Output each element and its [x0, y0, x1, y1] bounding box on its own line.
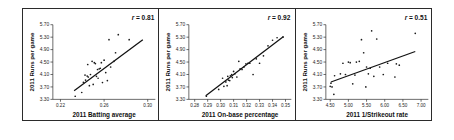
- data-point: [222, 77, 224, 79]
- correlation-value: = 0.81: [136, 14, 155, 21]
- data-point: [245, 63, 247, 65]
- data-point: [83, 81, 85, 83]
- y-tick-label: 5.30: [40, 35, 50, 40]
- data-point: [128, 39, 130, 41]
- correlation-value: = 0.51: [409, 14, 428, 21]
- data-point: [230, 75, 232, 77]
- data-point: [117, 34, 119, 36]
- x-tick-label: 0.26: [100, 103, 109, 108]
- x-tick-label: 7.00: [416, 103, 425, 108]
- x-tick-label: 0.28: [191, 103, 200, 108]
- data-point: [365, 66, 367, 68]
- data-point: [355, 61, 357, 63]
- data-point: [87, 76, 89, 78]
- x-axis-title: 2011 Batting average: [72, 111, 136, 119]
- data-point: [89, 85, 91, 87]
- x-tick-label: 4.50: [325, 103, 334, 108]
- data-point: [96, 76, 98, 78]
- data-point: [225, 81, 227, 83]
- y-tick-label: 3.70: [312, 85, 322, 90]
- y-tick-label: 5.70: [312, 23, 322, 28]
- data-point: [360, 39, 362, 41]
- y-tick-label: 3.70: [176, 85, 186, 90]
- correlation-annotation: r= 0.92: [268, 14, 291, 21]
- data-point: [238, 61, 240, 63]
- correlation-symbol: r: [404, 14, 407, 21]
- x-tick-label: 0.33: [255, 103, 264, 108]
- data-point: [101, 62, 103, 64]
- y-tick-label: 3.30: [40, 97, 50, 102]
- data-point: [229, 80, 231, 82]
- panel-frame: 3.303.704.104.504.905.305.700.220.260.30…: [22, 8, 432, 121]
- y-tick-label: 3.30: [176, 97, 186, 102]
- x-tick-label: 5.00: [344, 103, 353, 108]
- data-point: [365, 86, 367, 88]
- data-point: [352, 83, 354, 85]
- data-point: [227, 85, 229, 87]
- data-point: [247, 62, 249, 64]
- data-point: [90, 74, 92, 76]
- data-point: [263, 55, 265, 57]
- data-point: [85, 79, 87, 81]
- data-point: [233, 71, 235, 73]
- data-point: [108, 39, 110, 41]
- y-tick-label: 4.10: [40, 72, 50, 77]
- y-tick-label: 3.30: [312, 97, 322, 102]
- regression-line: [74, 40, 143, 91]
- y-axis-title: 2011 Runs per game: [28, 32, 35, 91]
- data-point: [242, 69, 244, 71]
- data-point: [249, 62, 251, 64]
- panel-3-plot: 3.303.704.104.504.905.305.704.505.005.50…: [296, 9, 431, 120]
- y-tick-label: 3.70: [40, 85, 50, 90]
- x-tick-label: 0.32: [242, 103, 251, 108]
- data-point: [84, 74, 86, 76]
- y-tick-label: 5.30: [312, 35, 322, 40]
- y-tick-label: 5.70: [176, 23, 186, 28]
- x-tick-label: 0.30: [143, 103, 152, 108]
- data-point: [339, 73, 341, 75]
- data-point: [382, 74, 384, 76]
- data-point: [282, 36, 284, 38]
- data-point: [354, 74, 356, 76]
- data-point: [395, 63, 397, 65]
- data-point: [232, 77, 234, 79]
- data-point: [362, 52, 364, 54]
- data-point: [74, 95, 76, 97]
- data-point: [97, 77, 99, 79]
- data-point: [103, 59, 105, 61]
- data-point: [256, 58, 258, 60]
- data-point: [206, 95, 208, 97]
- x-axis-title: 2011 On-base percentage: [202, 111, 279, 119]
- x-tick-label: 0.35: [281, 103, 290, 108]
- axis-spines: [326, 25, 428, 100]
- panel-strikeout-rate: 3.303.704.104.504.905.305.704.505.005.50…: [295, 9, 431, 120]
- data-point: [95, 63, 97, 65]
- data-point: [342, 62, 344, 64]
- panel-1-plot: 3.303.704.104.504.905.305.700.220.260.30…: [23, 9, 158, 120]
- x-tick-label: 0.34: [268, 103, 277, 108]
- x-tick-label: 6.50: [398, 103, 407, 108]
- data-point: [349, 62, 351, 64]
- x-tick-label: 5.50: [362, 103, 371, 108]
- data-point: [218, 89, 220, 91]
- y-axis-title: 2011 Runs per game: [165, 32, 172, 91]
- y-tick-label: 4.90: [312, 47, 322, 52]
- data-point: [370, 30, 372, 32]
- y-tick-label: 5.70: [40, 23, 50, 28]
- data-point: [398, 64, 400, 66]
- data-point: [236, 76, 238, 78]
- data-point: [99, 67, 101, 69]
- data-point: [97, 69, 99, 71]
- data-point: [267, 45, 269, 47]
- data-point: [344, 74, 346, 76]
- data-point: [386, 62, 388, 64]
- data-point: [333, 75, 335, 77]
- data-point: [378, 66, 380, 68]
- x-tick-label: 0.29: [204, 103, 213, 108]
- x-tick-label: 0.22: [56, 103, 65, 108]
- y-tick-label: 4.90: [176, 47, 186, 52]
- data-point: [259, 62, 261, 64]
- data-point: [272, 39, 274, 41]
- y-tick-label: 4.50: [176, 60, 186, 65]
- y-tick-label: 4.50: [312, 60, 322, 65]
